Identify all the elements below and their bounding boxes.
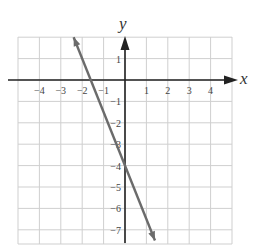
x-tick-label: 1 <box>144 85 149 96</box>
x-tick-label: 3 <box>187 85 192 96</box>
x-axis-arrow-icon <box>224 76 238 85</box>
line-arrow-icon <box>74 37 81 47</box>
x-tick-label: −3 <box>55 85 66 96</box>
x-tick-label: −1 <box>98 85 109 96</box>
y-tick-label: −1 <box>110 96 121 107</box>
y-tick-label: 1 <box>116 54 121 65</box>
y-axis-arrow-icon <box>121 36 130 50</box>
x-tick-labels: −4−3−2−11234 <box>34 85 213 96</box>
x-tick-label: 4 <box>208 85 213 96</box>
x-tick-label: −4 <box>34 85 45 96</box>
coordinate-plane: x y −4−3−2−11234 1−1−2−3−4−5−6−7 <box>0 0 258 250</box>
x-tick-label: 2 <box>165 85 170 96</box>
y-tick-label: −6 <box>110 203 121 214</box>
y-tick-label: −4 <box>110 161 121 172</box>
x-tick-label: −2 <box>77 85 88 96</box>
y-tick-label: −2 <box>110 118 121 129</box>
y-tick-label: −5 <box>110 182 121 193</box>
y-axis-label: y <box>117 14 127 33</box>
line-arrow-icon <box>148 231 155 241</box>
y-tick-label: −7 <box>110 225 121 236</box>
x-axis-label: x <box>239 69 248 88</box>
